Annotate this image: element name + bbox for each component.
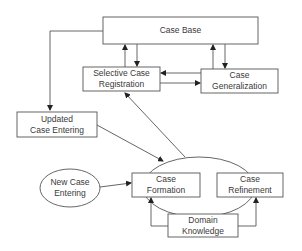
edge-group-to-scr [125, 93, 185, 157]
cr-line1: Case [240, 174, 260, 185]
nce-line2: Entering [54, 188, 86, 199]
scr-line1: Selective Case [93, 68, 150, 79]
case-generalization-label: Case Generalization [201, 69, 278, 93]
nce-line1: New Case [50, 177, 89, 188]
cr-line2: Refinement [228, 185, 271, 196]
case-formation-label: Case Formation [132, 173, 200, 197]
case-refinement-label: Case Refinement [217, 173, 283, 197]
uce-line2: Case Entering [30, 125, 84, 136]
cf-line1: Case [156, 174, 176, 185]
domain-knowledge-label: Domain Knowledge [168, 214, 238, 237]
case-base-label: Case Base [103, 17, 258, 44]
edge-new-case-to-formation [100, 183, 131, 187]
cf-line2: Formation [147, 185, 185, 196]
selective-case-registration-label: Selective Case Registration [83, 67, 160, 91]
dk-line2: Knowledge [182, 226, 224, 237]
cg-line1: Case [230, 70, 250, 81]
dk-line1: Domain [188, 215, 217, 226]
updated-case-entering-label: Updated Case Entering [17, 112, 97, 137]
case-base-text: Case Base [160, 25, 202, 36]
cg-line2: Generalization [212, 81, 267, 92]
uce-line1: Updated [41, 114, 73, 125]
edge-updated-to-group [97, 125, 163, 161]
scr-line2: Registration [99, 79, 144, 90]
new-case-entering-label: New Case Entering [40, 169, 100, 207]
